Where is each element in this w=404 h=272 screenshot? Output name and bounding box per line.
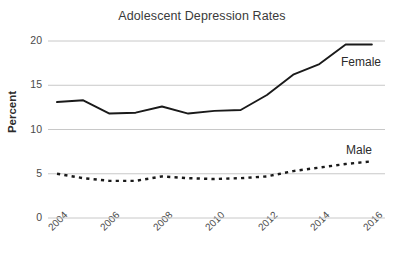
series-line-female	[57, 45, 372, 114]
series-label-male: Male	[346, 143, 372, 157]
plot-area	[0, 0, 404, 272]
series-label-female: Female	[341, 55, 381, 69]
chart-container: Adolescent Depression Rates Percent 0510…	[0, 0, 404, 272]
series-line-male	[57, 161, 372, 180]
